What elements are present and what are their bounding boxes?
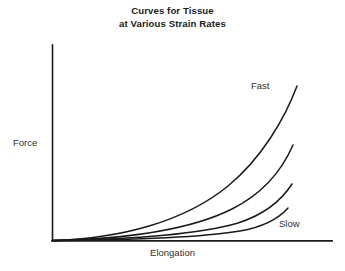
curve-slow bbox=[53, 208, 288, 241]
y-axis-label: Force bbox=[13, 137, 37, 148]
curve-fast bbox=[53, 86, 297, 241]
chart-figure: Curves for Tissue at Various Strain Rate… bbox=[0, 0, 345, 271]
x-axis-label: Elongation bbox=[0, 247, 345, 258]
chart-plot-area bbox=[0, 0, 345, 271]
curve-label-fast: Fast bbox=[251, 80, 269, 91]
curve-slow-mid bbox=[53, 184, 292, 241]
curve-label-slow: Slow bbox=[279, 218, 300, 229]
